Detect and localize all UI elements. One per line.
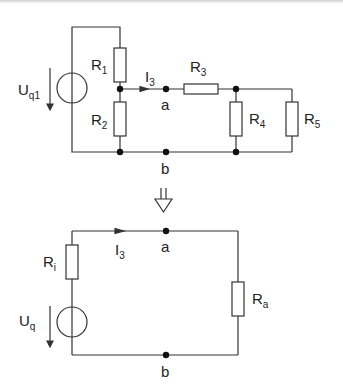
- resistor-r2: [114, 102, 126, 136]
- label-r2: R2: [91, 111, 108, 131]
- resistor-r4: [230, 102, 242, 136]
- current-arrow-icon: [140, 87, 148, 92]
- label-i3-eq: I3: [115, 241, 125, 261]
- label-r3: R3: [190, 58, 207, 78]
- resistor-r3: [184, 84, 218, 94]
- junction-node: [117, 86, 123, 92]
- equivalent-circuit: [47, 228, 244, 358]
- transform-arrow-icon: [155, 188, 172, 212]
- label-node-a-eq: a: [161, 238, 170, 255]
- circuit-diagram: Uq1 R1 R2 R3 R4 R5 I3 a b Ri Uq I3 a b R…: [0, 0, 343, 387]
- label-node-b-eq: b: [161, 363, 169, 380]
- label-uq: Uq: [19, 312, 35, 332]
- junction-node: [233, 86, 239, 92]
- label-r4: R4: [249, 110, 266, 130]
- resistor-r1: [114, 48, 126, 82]
- node-a-bottom: [163, 228, 169, 234]
- label-r5: R5: [304, 110, 321, 130]
- resistor-ri: [66, 245, 78, 279]
- junction-node: [117, 149, 123, 155]
- label-uq1: Uq1: [18, 81, 40, 101]
- current-arrow-icon: [115, 229, 124, 234]
- resistor-ra: [232, 282, 244, 316]
- junction-node: [233, 149, 239, 155]
- voltage-arrow-icon: [47, 68, 53, 110]
- label-node-b: b: [161, 160, 169, 177]
- label-node-a: a: [161, 96, 170, 113]
- voltage-arrow-icon: [47, 306, 53, 347]
- label-r1: R1: [91, 56, 108, 76]
- original-circuit: [47, 27, 298, 155]
- label-ra: Ra: [252, 290, 269, 310]
- label-ri: Ri: [43, 253, 56, 273]
- node-a-top: [163, 86, 169, 92]
- node-b-bottom: [163, 352, 169, 358]
- node-b-top: [163, 149, 169, 155]
- label-i3: I3: [145, 68, 155, 88]
- resistor-r5: [286, 102, 298, 136]
